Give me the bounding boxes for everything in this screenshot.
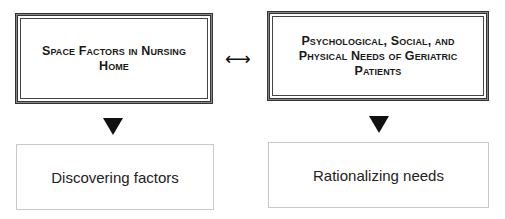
bidirectional-arrow-icon: ⟷ xyxy=(225,50,251,68)
down-arrow-icon xyxy=(369,116,389,133)
space-factors-label: Space Factors in Nursing Home xyxy=(18,44,210,74)
discovering-factors-label: Discovering factors xyxy=(51,169,179,186)
rationalizing-needs-label: Rationalizing needs xyxy=(313,167,444,184)
space-factors-box: Space Factors in Nursing Home xyxy=(17,15,211,102)
patient-needs-label: Psychological, Social, and Physical Need… xyxy=(270,34,486,79)
down-arrow-icon xyxy=(103,118,123,135)
discovering-factors-box: Discovering factors xyxy=(16,144,214,210)
patient-needs-box: Psychological, Social, and Physical Need… xyxy=(269,13,487,99)
rationalizing-needs-box: Rationalizing needs xyxy=(268,142,489,208)
